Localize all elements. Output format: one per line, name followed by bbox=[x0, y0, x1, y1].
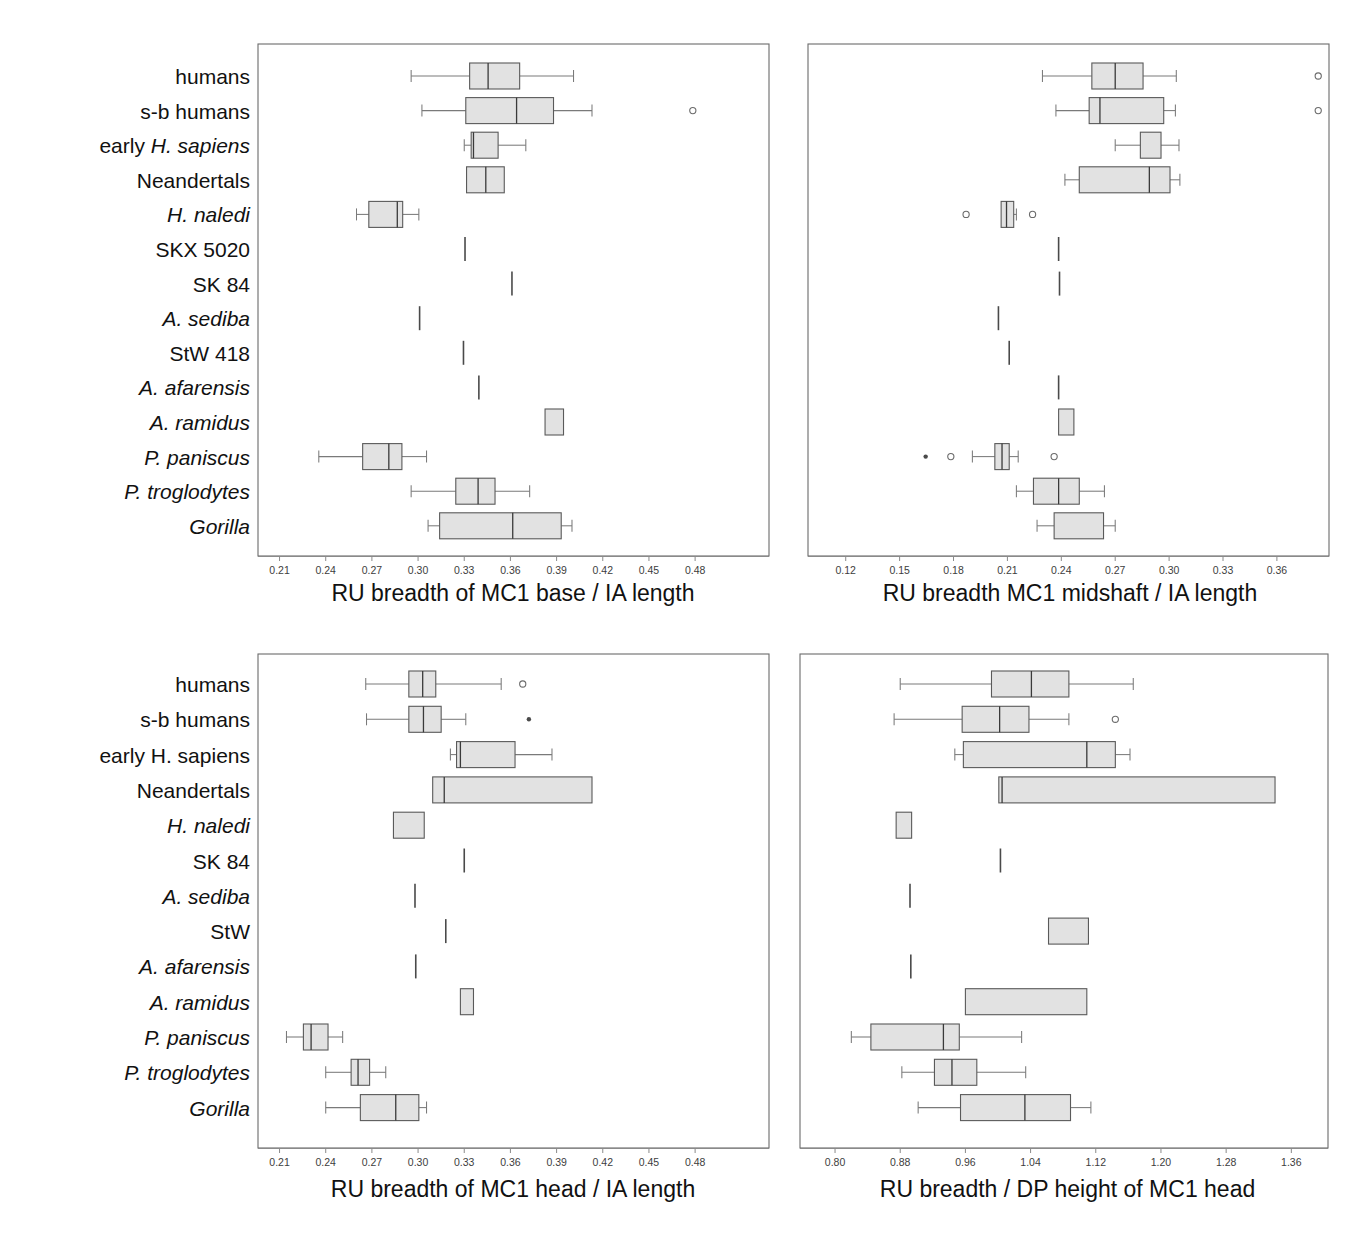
panel-d: 0.800.880.961.041.121.201.281.36RU bread… bbox=[0, 0, 1346, 1250]
x-tick-label: 0.88 bbox=[890, 1156, 911, 1168]
boxplot-row bbox=[965, 989, 1086, 1015]
figure-caption bbox=[28, 1238, 1328, 1250]
box-iqr bbox=[934, 1059, 976, 1085]
box-iqr bbox=[871, 1024, 959, 1050]
x-tick-label: 0.80 bbox=[825, 1156, 846, 1168]
boxplot-row bbox=[1049, 918, 1089, 944]
boxplot-figure: humanss-b humansearly H. sapiensNeandert… bbox=[0, 0, 1346, 1250]
box-iqr bbox=[961, 1095, 1071, 1121]
x-tick-label: 1.28 bbox=[1216, 1156, 1237, 1168]
x-tick-label: 1.20 bbox=[1151, 1156, 1172, 1168]
x-tick-label: 0.96 bbox=[955, 1156, 976, 1168]
box-iqr bbox=[896, 812, 911, 838]
box-iqr bbox=[1049, 918, 1089, 944]
boxplot-row bbox=[955, 742, 1130, 768]
axis-title-panel-d: RU breadth / DP height of MC1 head bbox=[795, 1176, 1340, 1203]
plot-area-panel-d: 0.800.880.961.041.121.201.281.36 bbox=[0, 0, 1346, 1250]
x-tick-label: 1.36 bbox=[1281, 1156, 1302, 1168]
box-iqr bbox=[962, 706, 1029, 732]
boxplot-row bbox=[896, 812, 911, 838]
boxplot-row bbox=[999, 777, 1275, 803]
box-iqr bbox=[963, 742, 1115, 768]
plot-frame bbox=[800, 654, 1328, 1148]
x-tick-label: 1.12 bbox=[1086, 1156, 1107, 1168]
box-iqr bbox=[965, 989, 1086, 1015]
box-iqr bbox=[999, 777, 1275, 803]
x-tick-label: 1.04 bbox=[1020, 1156, 1041, 1168]
box-iqr bbox=[991, 671, 1068, 697]
